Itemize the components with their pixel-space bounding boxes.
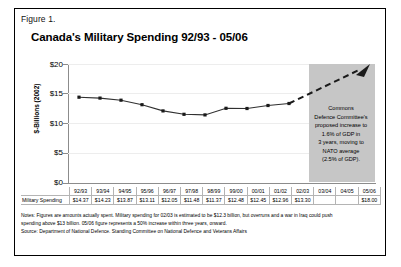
annotation-line-7: (2.5% of GDP). — [307, 155, 375, 164]
table-cell: $12.45 — [247, 196, 269, 205]
annotation-line-6: NATO average — [307, 147, 375, 156]
chart-title: Canada's Military Spending 92/93 - 05/06 — [31, 31, 248, 43]
series-line — [79, 97, 289, 115]
y-tick-0: $0 — [31, 178, 63, 187]
table-cell: $12.48 — [225, 196, 247, 205]
annotation-line-3: proposed increase to — [307, 121, 375, 130]
table-header-cell: 92/93 — [70, 187, 92, 196]
table-header-cell: 05/06 — [358, 187, 380, 196]
annotation-line-5: 3 years, moving to — [307, 138, 375, 147]
y-tick-10: $10 — [31, 119, 63, 128]
table-cell: $11.37 — [203, 196, 225, 205]
annotation-line-2: Defence Committee's — [307, 113, 375, 122]
y-tick-20: $20 — [31, 60, 63, 69]
table-header-cell: 97/98 — [181, 187, 203, 196]
table-header-cell: 00/01 — [247, 187, 269, 196]
table-cell: $13.30 — [292, 196, 314, 205]
projection-arrowhead — [356, 64, 370, 77]
y-tick-5: $5 — [31, 148, 63, 157]
table-row: Military Spending $14.37 $14.23 $13.87 $… — [21, 196, 381, 205]
annotation-line-1: Commons — [307, 104, 375, 113]
chart-plot: $-Billions (2002) $20 $15 $10 $5 $0 — [21, 53, 381, 201]
figure-label: Figure 1. — [21, 14, 55, 24]
data-table: 92/93 93/94 94/95 95/96 96/97 97/98 98/9… — [21, 187, 381, 205]
table-header-cell: 98/99 — [203, 187, 225, 196]
table-header-cell: 04/05 — [336, 187, 358, 196]
table-header-cell: 93/94 — [92, 187, 114, 196]
annotation-line-4: 1.6% of GDP in — [307, 130, 375, 139]
notes-line-2: spending above $13 billion. 05/06 figure… — [21, 220, 379, 228]
table-cell: $13.11 — [136, 196, 158, 205]
table-header-cell: 02/03 — [292, 187, 314, 196]
table-header-corner — [21, 187, 70, 196]
table-cell: $18.00 — [358, 196, 380, 205]
table-header-cell: 01/02 — [269, 187, 291, 196]
table-header-cell: 95/96 — [136, 187, 158, 196]
table-header-row: 92/93 93/94 94/95 95/96 96/97 97/98 98/9… — [21, 187, 381, 196]
table-cell: $11.48 — [181, 196, 203, 205]
table-cell: $12.05 — [158, 196, 180, 205]
projection-annotation: Commons Defence Committee's proposed inc… — [307, 104, 375, 164]
plot-area: Commons Defence Committee's proposed inc… — [68, 64, 375, 182]
table-cell — [336, 196, 358, 205]
table-row-label: Military Spending — [21, 196, 70, 205]
table-cell: $12.96 — [269, 196, 291, 205]
table-cell: $14.23 — [92, 196, 114, 205]
notes-line-1: Notes: Figures are amounts actually spen… — [21, 212, 379, 220]
y-tick-15: $15 — [31, 89, 63, 98]
table-cell: $13.87 — [114, 196, 136, 205]
figure-container: Figure 1. Canada's Military Spending 92/… — [14, 8, 386, 256]
figure-notes: Notes: Figures are amounts actually spen… — [21, 212, 379, 236]
table-header-cell: 03/04 — [314, 187, 336, 196]
x-axis-line — [68, 183, 376, 184]
table-header-cell: 96/97 — [158, 187, 180, 196]
notes-source: Source: Department of National Defence. … — [21, 228, 379, 236]
table-cell — [314, 196, 336, 205]
table-header-cell: 99/00 — [225, 187, 247, 196]
y-axis-label: $-Billions (2002) — [33, 73, 40, 145]
table-cell: $14.37 — [70, 196, 92, 205]
table-header-cell: 94/95 — [114, 187, 136, 196]
projection-dashed-line — [289, 70, 360, 104]
